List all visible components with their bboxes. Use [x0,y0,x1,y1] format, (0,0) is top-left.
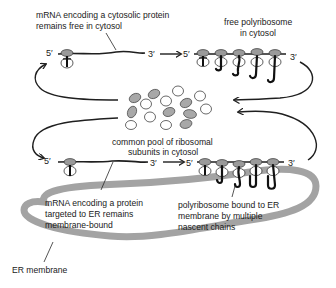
recycle-arrow-bottom-right [238,111,316,160]
three-prime-label: 3′ [148,49,155,59]
svg-text:in cytosol: in cytosol [240,28,276,38]
svg-text:polyribosome bound to ER: polyribosome bound to ER [178,200,279,210]
svg-text:subunits in cytosol: subunits in cytosol [128,147,198,157]
svg-text:nascent chains: nascent chains [178,222,235,232]
er-membrane-label: ER membrane [12,265,68,275]
svg-text:mRNA encoding a cytosolic prot: mRNA encoding a cytosolic protein [36,10,169,20]
svg-text:remains free in cytosol: remains free in cytosol [36,21,122,31]
leader-line [232,186,235,197]
three-prime-label: 3′ [150,158,157,168]
svg-text:common pool of ribosomal: common pool of ribosomal [112,137,213,147]
recycle-arrow-top-left [35,64,118,100]
five-prime-label: 5′ [183,49,190,59]
ribosomal-subunit-pool [126,86,212,130]
svg-text:membrane-bound: membrane-bound [45,220,113,230]
common-pool-label: common pool of ribosomal subunits in cyt… [112,137,213,157]
leader-line [106,33,116,50]
ribosome-single-er [64,159,76,176]
free-polyribosome-label: free polyribosome in cytosol [224,17,293,38]
svg-text:mRNA encoding a protein: mRNA encoding a protein [45,198,143,208]
svg-text:targeted to ER remains: targeted to ER remains [45,209,133,219]
svg-text:membrane by multiple: membrane by multiple [178,211,263,221]
svg-text:free polyribosome: free polyribosome [224,17,293,27]
cytosolic-mrna-label: mRNA encoding a cytosolic protein remain… [36,10,169,31]
five-prime-label: 5′ [46,48,53,58]
er-mrna-label: mRNA encoding a protein targeted to ER r… [45,198,143,230]
leader-line [44,242,53,262]
three-prime-label: 3′ [288,158,295,168]
protein-targeting-diagram: mRNA encoding a cytosolic protein remain… [0,0,336,288]
recycle-arrow-bottom-left [33,118,118,158]
ribosome-single [61,50,73,68]
five-prime-label: 5′ [186,158,193,168]
five-prime-label: 5′ [44,156,51,166]
three-prime-label: 3′ [290,52,297,62]
